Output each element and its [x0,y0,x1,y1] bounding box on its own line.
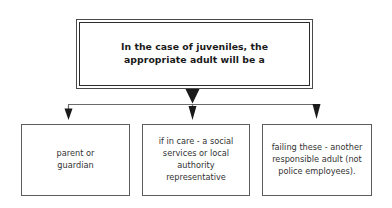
branch-arrow-right [313,104,321,119]
branch-arrow-middle [189,106,197,120]
outcome-box-text: parent or guardian [52,148,100,172]
flowchart-diagram: In the case of juveniles, the appropriat… [0,0,392,208]
outcome-box-text: if in care - a social services or local … [154,136,239,184]
outcome-box-responsible-adult: failing these - another responsible adul… [262,124,372,196]
branch-arrow-left [65,109,73,121]
title-box-text: In the case of juveniles, the appropriat… [115,41,274,67]
main-down-arrow [186,89,200,104]
title-box: In the case of juveniles, the appropriat… [76,19,313,89]
title-box-inner-border: In the case of juveniles, the appropriat… [79,22,310,86]
outcome-box-text: failing these - another responsible adul… [267,142,368,178]
outcome-box-social-services: if in care - a social services or local … [142,124,250,196]
outcome-box-parent-or-guardian: parent or guardian [21,124,130,196]
